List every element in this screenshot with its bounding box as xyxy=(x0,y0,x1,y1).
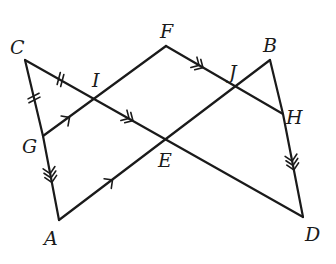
segment-F-H xyxy=(166,46,283,114)
segments xyxy=(25,46,303,220)
label-J: J xyxy=(225,61,238,83)
segment-B-H xyxy=(270,60,283,114)
label-B: B xyxy=(262,34,277,56)
label-I: I xyxy=(91,69,100,91)
geometry-diagram: C F B I J G E H A D xyxy=(0,0,336,264)
label-A: A xyxy=(42,227,58,249)
label-H: H xyxy=(285,106,303,128)
point-labels: C F B I J G E H A D xyxy=(10,20,320,249)
segment-C-G xyxy=(25,60,43,136)
label-E: E xyxy=(157,149,172,171)
segment-A-B xyxy=(59,60,270,220)
segment-C-D xyxy=(25,60,303,217)
segment-G-F xyxy=(43,46,166,136)
label-D: D xyxy=(304,223,320,245)
label-C: C xyxy=(10,36,25,58)
label-G: G xyxy=(22,135,37,157)
label-F: F xyxy=(159,20,174,42)
